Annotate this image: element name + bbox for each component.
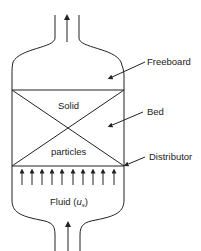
- freeboard-label: Freeboard: [147, 56, 191, 67]
- fluid-flow-arrows: [22, 171, 114, 185]
- bed-label: Bed: [147, 106, 164, 117]
- fluid-label: Fluid (us): [50, 196, 88, 208]
- solid-label: Solid: [58, 100, 79, 111]
- freeboard-leader: [110, 62, 145, 78]
- particles-label: particles: [51, 146, 87, 157]
- distributor-label: Distributor: [149, 151, 192, 162]
- bed-leader: [110, 112, 143, 126]
- fluidized-bed-diagram: Solid particles Fluid (us) Freeboard Bed…: [0, 0, 201, 251]
- vessel-outline: [12, 15, 124, 251]
- distributor-leader: [126, 157, 145, 165]
